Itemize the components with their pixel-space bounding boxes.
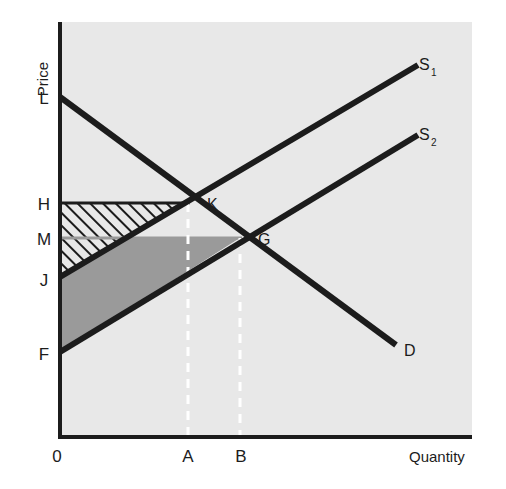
point-label-g: G <box>258 231 270 248</box>
supply-demand-diagram: Price Quantity L H M J F 0 A B K G S 1 S… <box>0 0 506 489</box>
curve-label-s1-subscript: 1 <box>431 67 437 78</box>
curve-label-d: D <box>404 342 416 359</box>
y-tick-label-l: L <box>39 89 48 108</box>
x-tick-label-b: B <box>235 447 246 466</box>
y-tick-label-h: H <box>38 195 50 214</box>
x-tick-label-origin: 0 <box>52 447 61 466</box>
y-tick-label-f: F <box>39 345 49 364</box>
curve-label-s2-subscript: 2 <box>431 137 437 148</box>
curve-label-s1-text: S <box>419 56 430 73</box>
y-tick-label-j: J <box>40 271 49 290</box>
curve-label-s2-text: S <box>419 126 430 143</box>
point-label-k: K <box>207 196 218 213</box>
chart-canvas: Price Quantity L H M J F 0 A B K G S 1 S… <box>0 0 506 489</box>
x-axis-title: Quantity <box>409 448 465 465</box>
x-tick-label-a: A <box>182 447 194 466</box>
y-tick-label-m: M <box>37 230 51 249</box>
